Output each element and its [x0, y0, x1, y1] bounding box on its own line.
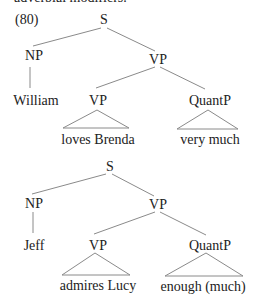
- edge-vp-vp-1: [96, 67, 155, 88]
- edge-vp-vp-2: [94, 212, 155, 234]
- node-quantp-1: QuantP: [189, 94, 231, 108]
- node-vp-2: VP: [149, 198, 167, 212]
- leaf-admires-lucy: admires Lucy: [60, 279, 137, 293]
- node-vp-inner-1: VP: [89, 94, 107, 108]
- leaf-enough-much: enough (much): [160, 280, 245, 294]
- edge-s-np-2: [32, 174, 106, 194]
- triangle-quantp-1: [177, 110, 238, 129]
- node-s-2: S: [106, 160, 114, 174]
- edge-s-np-1: [33, 28, 101, 46]
- node-vp-inner-2: VP: [89, 239, 107, 253]
- node-vp-1: VP: [149, 53, 167, 67]
- triangle-vp-1: [63, 110, 129, 128]
- node-np-1: NP: [25, 49, 43, 63]
- triangle-vp-2: [62, 253, 130, 275]
- leaf-very-much: very much: [180, 133, 239, 147]
- example-number: (80): [15, 13, 38, 27]
- tree-edges: [0, 0, 259, 300]
- triangle-quantp-2: [165, 253, 243, 276]
- leaf-william: William: [13, 94, 58, 108]
- leaf-jeff: Jeff: [24, 239, 45, 253]
- edge-s-vp-2: [112, 174, 154, 196]
- edge-s-vp-1: [107, 28, 155, 51]
- syntax-tree-figure: adverbial modifiers. (80) S NP VP Willia…: [0, 0, 259, 300]
- edge-vp-quantp-2: [160, 212, 206, 235]
- leaf-loves-brenda: loves Brenda: [61, 133, 134, 147]
- node-np-2: NP: [25, 197, 43, 211]
- node-s-1: S: [100, 13, 108, 27]
- edge-vp-quantp-1: [160, 67, 205, 89]
- node-quantp-2: QuantP: [189, 239, 231, 253]
